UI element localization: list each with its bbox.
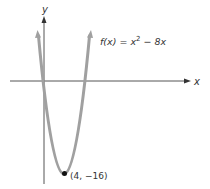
x-axis-label: x xyxy=(193,76,200,87)
function-label-prefix: f(x) = x xyxy=(100,36,136,47)
graph-canvas: y x f(x) = x2 − 8x (4, −16) xyxy=(0,0,210,189)
y-axis-label: y xyxy=(41,4,49,15)
parabola-curve xyxy=(39,36,90,174)
x-axis-arrow-icon xyxy=(184,79,191,84)
curve-left-arrow-icon xyxy=(35,30,41,38)
vertex-point xyxy=(62,171,67,176)
vertex-label: (4, −16) xyxy=(70,171,107,181)
y-axis-arrow-icon xyxy=(42,16,47,23)
function-label: f(x) = x2 − 8x xyxy=(100,35,167,47)
curve-right-arrow-icon xyxy=(87,30,93,38)
function-label-suffix: − 8x xyxy=(140,36,166,47)
